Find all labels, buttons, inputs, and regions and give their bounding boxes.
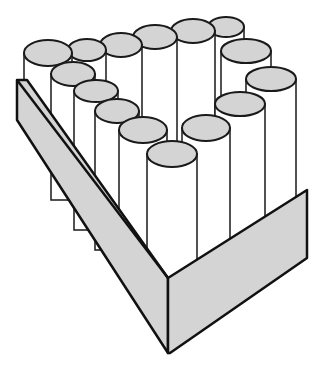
cylinder-tray-illustration	[0, 0, 327, 371]
cylinder-cap	[221, 39, 271, 63]
cylinder-cap	[246, 67, 296, 91]
cylinder-cap	[215, 92, 265, 116]
cylinder-cap	[147, 141, 197, 167]
cylinder-cap	[182, 115, 230, 141]
cylinder-cap	[68, 39, 106, 61]
cylinder-cap	[119, 117, 167, 143]
